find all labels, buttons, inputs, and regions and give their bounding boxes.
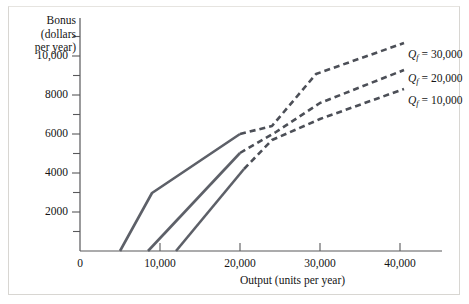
series-line-qf-30000-dashed	[240, 43, 404, 134]
x-tick-label-40000: 40,000	[370, 257, 430, 271]
y-tick-label-2000: 2000	[8, 205, 68, 219]
series-line-qf-20000-solid	[148, 153, 240, 251]
x-tick-label-0: 0	[50, 257, 110, 271]
y-tick-label-6000: 6000	[8, 127, 68, 141]
x-tick-label-20000: 20,000	[210, 257, 270, 271]
y-tick-label-8000: 8000	[8, 88, 68, 102]
x-tick-label-10000: 10,000	[130, 257, 190, 271]
y-axis-title-line-1: Bonus	[0, 14, 76, 28]
series-label-qf-30000: Qf = 30,000	[408, 48, 463, 62]
x-axis-title: Output (units per year)	[240, 274, 345, 288]
x-tick-label-30000: 30,000	[290, 257, 350, 271]
series-line-qf-10000-dashed	[244, 89, 404, 169]
series-line-qf-20000-dashed	[240, 70, 404, 153]
y-tick-label-10000: 10,000	[8, 49, 68, 63]
y-axis-title-line-2: (dollars	[0, 28, 76, 42]
series-label-qf-10000: Qf = 10,000	[408, 94, 463, 108]
series-label-qf-20000: Qf = 20,000	[408, 72, 463, 86]
series-line-qf-30000-solid	[120, 134, 240, 251]
chart-figure: Bonus (dollars per year) 10,000 8000 600…	[0, 0, 469, 304]
y-tick-label-4000: 4000	[8, 166, 68, 180]
